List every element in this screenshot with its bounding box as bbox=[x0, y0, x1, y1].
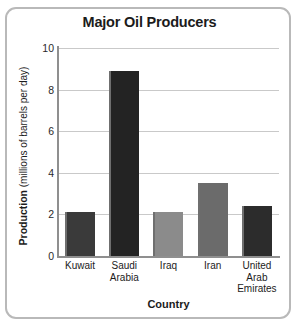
y-axis-line bbox=[57, 46, 59, 258]
bar-slot bbox=[235, 48, 279, 256]
y-axis-label-units: (millions of barrels per day) bbox=[18, 67, 29, 190]
bar[interactable] bbox=[242, 206, 272, 256]
x-tick-label: Iraq bbox=[146, 260, 190, 272]
x-tick-label-line: Kuwait bbox=[58, 260, 102, 272]
y-axis-label: Production (millions of barrels per day) bbox=[17, 51, 29, 261]
x-tick-label-line: Emirates bbox=[235, 283, 279, 295]
y-axis-label-bold: Production bbox=[17, 190, 29, 245]
x-tick-label-line: Arabia bbox=[102, 272, 146, 284]
x-axis-label: Country bbox=[58, 298, 279, 310]
x-tick-label-line: Saudi bbox=[102, 260, 146, 272]
bar[interactable] bbox=[65, 212, 95, 256]
y-axis-ticks: 0246810 bbox=[8, 0, 54, 335]
x-tick-label-line: United bbox=[235, 260, 279, 272]
x-tick-label: Kuwait bbox=[58, 260, 102, 272]
bar-slot bbox=[58, 48, 102, 256]
x-tick-label-line: Iran bbox=[191, 260, 235, 272]
x-tick-label-line: Iraq bbox=[146, 260, 190, 272]
x-tick-label: Iran bbox=[191, 260, 235, 272]
x-tick-label: UnitedArabEmirates bbox=[235, 260, 279, 295]
bar[interactable] bbox=[109, 71, 139, 256]
plot-area bbox=[58, 48, 279, 256]
x-tick-label-line: Arab bbox=[235, 272, 279, 284]
x-tick-label: SaudiArabia bbox=[102, 260, 146, 283]
bar-slot bbox=[191, 48, 235, 256]
bar[interactable] bbox=[153, 212, 183, 256]
bar-slot bbox=[102, 48, 146, 256]
x-axis-line bbox=[58, 256, 280, 258]
bar-slot bbox=[146, 48, 190, 256]
bar[interactable] bbox=[198, 183, 228, 256]
